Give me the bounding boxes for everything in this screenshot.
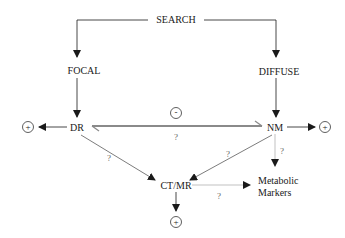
question-nm-metabolic: ? <box>280 146 284 156</box>
plus-sign-bottom: + <box>173 217 178 227</box>
question-dr-ctmr: ? <box>107 153 111 163</box>
dr-to-ctmr-edge <box>81 135 155 180</box>
diagram-canvas <box>0 0 345 238</box>
nm-to-ctmr-edge <box>190 135 272 180</box>
node-search: SEARCH <box>153 14 198 26</box>
plus-sign-left: + <box>25 122 30 132</box>
metabolic-line1: Metabolic <box>258 175 299 187</box>
node-focal: FOCAL <box>68 65 101 77</box>
node-dr: DR <box>70 122 84 134</box>
dr-nm-inhibition-edge <box>92 121 262 131</box>
node-diffuse: DIFFUSE <box>259 66 300 78</box>
plus-sign-right: + <box>322 122 327 132</box>
node-metabolic-markers: Metabolic Markers <box>258 175 299 198</box>
node-ctmr: CT/MR <box>160 180 191 192</box>
node-nm: NM <box>267 122 283 134</box>
metabolic-line2: Markers <box>258 186 299 198</box>
question-dr-nm: ? <box>174 132 178 142</box>
search-to-focal-edge <box>77 20 148 57</box>
minus-sign: - <box>175 107 178 117</box>
search-to-diffuse-edge <box>204 20 276 57</box>
question-nm-ctmr: ? <box>226 149 230 159</box>
question-ctmr-metabolic: ? <box>217 191 221 201</box>
